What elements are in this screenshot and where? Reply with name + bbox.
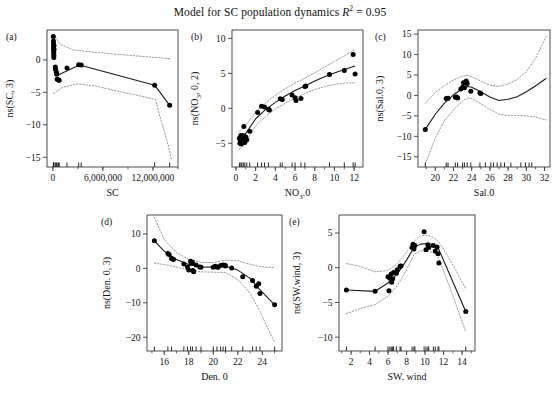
y-axis: 1050−5 <box>215 34 232 149</box>
y-tick-label: −10 <box>126 298 141 308</box>
panel-d: (d)1618202224100−10−20Den. 0ns(Den. 0, 3… <box>95 205 290 393</box>
data-point <box>256 281 261 286</box>
x-tick-label: 12 <box>439 357 449 367</box>
confidence-band-lower <box>425 98 546 164</box>
confidence-band-lower <box>53 84 171 159</box>
x-axis: 024681012 <box>234 167 360 183</box>
x-tick-label: 2 <box>349 357 354 367</box>
plot-frame <box>339 215 475 351</box>
x-tick-label: 4 <box>273 173 278 183</box>
rug-marks <box>346 347 465 352</box>
data-point <box>79 63 84 68</box>
data-point <box>435 244 440 249</box>
data-point <box>167 103 172 108</box>
panel-letter-e: (e) <box>289 217 300 228</box>
x-tick-label: 8 <box>404 357 409 367</box>
x-axis: 1618202224 <box>152 351 275 367</box>
data-point <box>303 83 308 88</box>
x-tick-label: 8 <box>312 173 317 183</box>
data-point <box>241 124 246 129</box>
x-tick-label: 24 <box>467 173 477 183</box>
x-tick-label: 30 <box>522 173 532 183</box>
data-point <box>373 289 378 294</box>
data-point <box>229 266 234 271</box>
data-point <box>199 265 204 270</box>
x-tick-label: 12,000,000 <box>132 173 175 183</box>
y-tick-label: −5 <box>215 139 225 149</box>
data-point <box>327 72 332 77</box>
plot-e: (e)246810121450−5−10SW. windns(SW.wind, … <box>283 205 483 393</box>
data-point <box>257 291 262 296</box>
data-point <box>398 264 403 269</box>
x-tick-label: 6 <box>293 173 298 183</box>
data-point <box>223 263 228 268</box>
data-point <box>351 52 356 57</box>
panel-letter-a: (a) <box>6 32 17 43</box>
data-point <box>255 110 260 115</box>
data-point <box>152 238 157 243</box>
panel-e: (e)246810121450−5−10SW. windns(SW.wind, … <box>283 205 483 393</box>
data-point <box>250 278 255 283</box>
y-tick-label: 0 <box>221 104 226 114</box>
y-tick-label: −20 <box>126 333 141 343</box>
x-tick-label: 20 <box>209 357 219 367</box>
y-tick-label: 15 <box>402 29 412 39</box>
fitted-line <box>154 241 274 305</box>
x-tick-label: 0 <box>50 173 55 183</box>
x-tick-label: 24 <box>258 357 268 367</box>
data-point <box>468 89 473 94</box>
figure-title-value: = 0.95 <box>353 6 386 18</box>
confidence-band-upper <box>53 35 171 59</box>
data-point <box>240 274 245 279</box>
data-point <box>272 302 277 307</box>
plot-frame <box>232 30 363 167</box>
y-tick-label: 5 <box>407 70 412 80</box>
data-point <box>57 78 62 83</box>
x-axis: 2468101214 <box>342 351 472 367</box>
y-tick-label: 5 <box>221 69 226 79</box>
x-tick-label: 0 <box>234 173 239 183</box>
y-tick-label: −5 <box>322 298 332 308</box>
data-point <box>478 91 483 96</box>
data-point <box>247 129 252 134</box>
x-axis-label: NO3.0 <box>285 187 310 201</box>
data-point <box>51 55 56 60</box>
x-tick-label: 12 <box>349 173 359 183</box>
data-point <box>455 95 460 100</box>
plot-b: (b)0246810121050−5NO3.0ns(NO3, 0, 2) <box>185 22 370 205</box>
x-tick-label: 16 <box>159 357 169 367</box>
data-point <box>465 81 470 86</box>
confidence-band-upper <box>346 235 465 288</box>
x-axis-label: SW. wind <box>387 371 426 382</box>
confidence-band-lower <box>239 83 355 150</box>
y-axis: 100−10−20 <box>126 229 147 342</box>
data-point <box>280 97 285 102</box>
panel-c: (c)20222426283032151050−5−10−15Sal.0ns(S… <box>370 22 560 205</box>
rug-marks <box>53 163 169 168</box>
data-point <box>54 72 59 77</box>
confidence-band-upper <box>239 50 355 132</box>
y-tick-label: −5 <box>401 111 411 121</box>
panel-letter-d: (d) <box>101 217 112 228</box>
data-point <box>186 268 191 273</box>
data-point <box>423 127 428 132</box>
x-tick-label: 18 <box>184 357 194 367</box>
x-tick-label: 10 <box>420 357 430 367</box>
y-tick-label: −5 <box>30 88 40 98</box>
panel-b: (b)0246810121050−5NO3.0ns(NO3, 0, 2) <box>185 22 370 205</box>
plot-d: (d)1618202224100−10−20Den. 0ns(Den. 0, 3… <box>95 205 290 393</box>
x-tick-label: 2 <box>253 173 258 183</box>
plot-a: (a)06,000,00012,000,0000−5−10−15SCns(SC,… <box>0 22 185 205</box>
data-point <box>390 276 395 281</box>
panel-letter-c: (c) <box>375 32 386 43</box>
data-point <box>298 96 303 101</box>
y-axis: 0−5−10−15 <box>26 55 47 162</box>
y-tick-label: −10 <box>26 120 41 130</box>
confidence-band-lower <box>154 263 274 342</box>
x-axis: 20222426283032 <box>426 167 549 183</box>
panel-a: (a)06,000,00012,000,0000−5−10−15SCns(SC,… <box>0 22 185 205</box>
data-point <box>462 85 467 90</box>
y-tick-label: 0 <box>136 264 141 274</box>
data-point <box>171 257 176 262</box>
y-axis-label: ns(SC, 3) <box>4 80 16 118</box>
